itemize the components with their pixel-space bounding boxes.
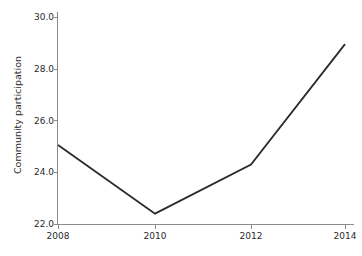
x-axis-ticks <box>59 225 346 229</box>
data-series-line <box>58 44 345 213</box>
axes-spines <box>58 12 355 225</box>
plot-area <box>0 0 362 256</box>
line-chart-figure: Community participation 22.0 24.0 26.0 2… <box>0 0 362 256</box>
y-axis-ticks <box>54 18 58 225</box>
